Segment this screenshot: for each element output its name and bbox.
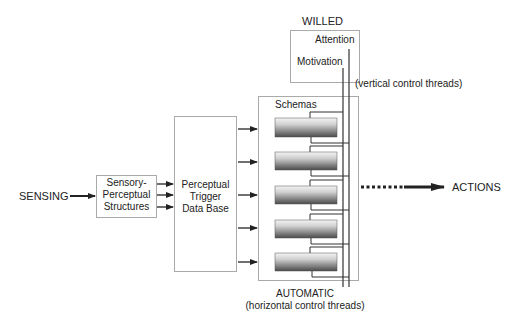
- automatic-label: AUTOMATIC: [265, 288, 345, 300]
- sensory-box-text: Sensory- Perceptual Structures: [96, 177, 157, 213]
- sensory-line-3: Structures: [96, 201, 157, 213]
- schema-1: [275, 112, 349, 143]
- schema-4: [275, 214, 349, 244]
- diagram-canvas: [0, 0, 519, 325]
- schema-2: [275, 146, 349, 176]
- trigger-line-1: Perceptual: [174, 179, 237, 191]
- willed-label: WILLED: [302, 15, 343, 27]
- trigger-line-3: Data Base: [174, 203, 237, 215]
- vertical-threads-caption: (vertical control threads): [355, 78, 462, 90]
- trigger-box-text: Perceptual Trigger Data Base: [174, 179, 237, 215]
- schema-3: [275, 180, 349, 210]
- horizontal-threads-caption: (horizontal control threads): [240, 300, 370, 312]
- sensory-line-2: Perceptual: [96, 189, 157, 201]
- sensory-output-arrows: [157, 184, 173, 207]
- motivation-label: Motivation: [297, 56, 343, 68]
- trigger-output-arrows: [238, 129, 257, 262]
- actions-label: ACTIONS: [452, 181, 501, 193]
- attention-label: Attention: [315, 34, 354, 46]
- schema-bars: [275, 112, 349, 277]
- schemas-label: Schemas: [275, 99, 317, 111]
- trigger-line-2: Trigger: [174, 191, 237, 203]
- sensing-label: SENSING: [19, 190, 69, 202]
- schema-5: [275, 247, 349, 277]
- sensory-line-1: Sensory-: [96, 177, 157, 189]
